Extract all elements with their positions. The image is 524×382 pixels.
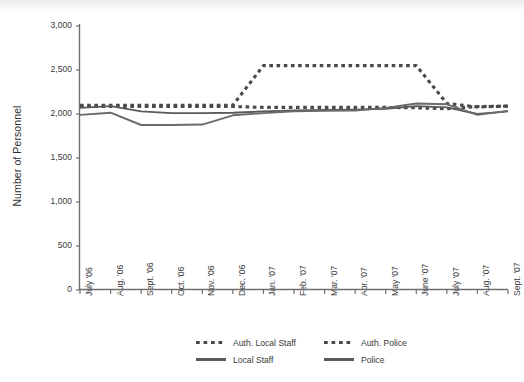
legend-row-2: Local Staff Police (196, 351, 496, 368)
legend-item-local-staff: Local Staff (196, 355, 324, 365)
legend-label-auth-police: Auth. Police (361, 338, 407, 348)
chart-plot-area (0, 0, 524, 382)
legend-swatch-solid-icon (196, 358, 226, 361)
chart-legend: Auth. Local Staff Auth. Police Local Sta… (196, 334, 496, 368)
legend-swatch-solid-icon (324, 358, 354, 361)
legend-label-local-staff: Local Staff (233, 355, 273, 365)
series-line-auth-local-staff (80, 66, 508, 107)
legend-item-auth-local-staff: Auth. Local Staff (196, 338, 324, 348)
legend-item-police: Police (324, 355, 384, 365)
legend-swatch-dashed-icon (196, 341, 226, 344)
legend-label-auth-local-staff: Auth. Local Staff (233, 338, 296, 348)
chart-series-group (80, 66, 508, 125)
legend-swatch-dashed-icon (324, 341, 354, 344)
chart-axes (80, 24, 509, 290)
legend-label-police: Police (361, 355, 384, 365)
series-line-local-staff (80, 106, 508, 114)
chart-figure: Number of Personnel 05001,0001,5002,0002… (0, 0, 524, 382)
x-axis-tick-marks (80, 290, 508, 294)
legend-row-1: Auth. Local Staff Auth. Police (196, 334, 496, 351)
legend-item-auth-police: Auth. Police (324, 338, 407, 348)
